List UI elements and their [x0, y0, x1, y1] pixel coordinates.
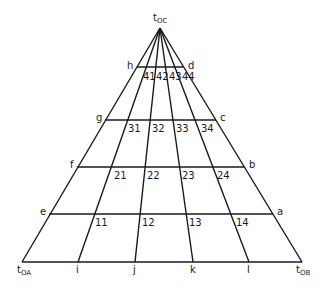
cell-43: 43	[169, 72, 182, 82]
cell-13: 13	[189, 218, 202, 228]
point-h: h	[127, 61, 133, 71]
point-f: f	[70, 160, 74, 170]
point-k: k	[190, 265, 196, 275]
point-l: l	[247, 265, 250, 275]
point-d: d	[188, 61, 194, 71]
cell-34: 34	[201, 124, 214, 134]
cell-32: 32	[152, 124, 165, 134]
base-left-label-sub: OA	[21, 269, 31, 277]
ternary-grid-diagram	[0, 0, 324, 295]
point-i: i	[76, 265, 79, 275]
cell-11: 11	[95, 218, 108, 228]
point-b: b	[249, 160, 255, 170]
cell-33: 33	[176, 124, 189, 134]
cell-21: 21	[114, 171, 127, 181]
right-edge	[160, 28, 302, 262]
cell-23: 23	[182, 171, 195, 181]
cell-22: 22	[147, 171, 160, 181]
point-a: a	[277, 207, 283, 217]
cell-31: 31	[128, 124, 141, 134]
base-right-label-sub: OB	[300, 269, 310, 277]
point-j: j	[133, 265, 136, 275]
cell-14: 14	[236, 218, 249, 228]
cell-42: 42	[156, 72, 169, 82]
cell-12: 12	[142, 218, 155, 228]
cell-44: 44	[182, 72, 195, 82]
point-g: g	[96, 113, 102, 123]
apex-label-sub: OC	[157, 17, 167, 25]
base-right-label: tOB	[296, 265, 310, 277]
cell-41: 41	[143, 72, 156, 82]
base-left-label: tOA	[17, 265, 31, 277]
cell-24: 24	[217, 171, 230, 181]
point-c: c	[220, 113, 226, 123]
point-e: e	[40, 207, 46, 217]
apex-label: tOC	[153, 13, 167, 25]
